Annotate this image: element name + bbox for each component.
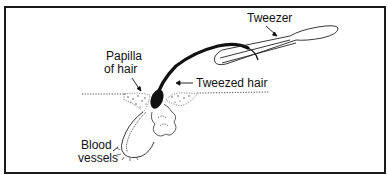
- blood-vessels-label-line2: vessels: [78, 152, 118, 164]
- dermis-left: [124, 93, 150, 112]
- papilla-label-line1: Papilla: [106, 50, 142, 62]
- follicle-gland: [151, 104, 176, 136]
- tweezed-hair-label: Tweezed hair: [196, 77, 267, 89]
- dermis-right: [166, 93, 197, 106]
- papilla-label-line2: of hair: [104, 63, 137, 75]
- hair-tweezing-illustration: [0, 0, 388, 175]
- blood-vessels: [117, 112, 154, 161]
- skin-surface-line: [82, 92, 270, 94]
- tweezer-label: Tweezer: [247, 12, 292, 24]
- blood-vessels-label-line1: Blood: [81, 139, 112, 151]
